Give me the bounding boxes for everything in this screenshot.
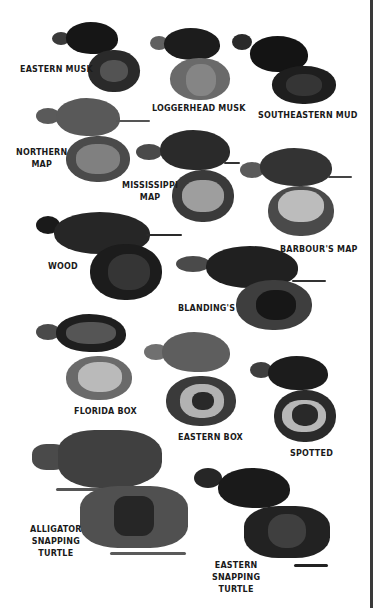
- northern-map-turtle-bottom-image: [66, 136, 132, 184]
- florida-box-turtle-top-image: [36, 314, 132, 358]
- spotted-turtle-top-image: [250, 356, 330, 394]
- loggerhead-musk-turtle-bottom-image: [170, 58, 232, 102]
- alligator-snapping-turtle-bottom-image: [80, 486, 196, 560]
- wood-turtle-bottom-image: [90, 244, 164, 302]
- florida-box-label: FLORIDA BOX: [74, 406, 137, 418]
- alligator-snapping-turtle-top-image: [32, 430, 164, 494]
- eastern-box-turtle-top-image: [144, 332, 238, 376]
- florida-box-turtle-bottom-image: [66, 356, 138, 402]
- loggerhead-musk-label: LOGGERHEAD MUSK: [152, 103, 246, 115]
- mississippi-map-label: MISSISSIPPI MAP: [122, 180, 178, 204]
- eastern-snapping-turtle-label: EASTERN SNAPPING TURTLE: [212, 560, 260, 596]
- alligator-snapping-turtle-label: ALLIGATOR SNAPPING TURTLE: [30, 524, 82, 560]
- eastern-musk-turtle-bottom-image: [88, 50, 144, 94]
- southeastern-mud-label: SOUTHEASTERN MUD: [258, 110, 358, 122]
- eastern-box-label: EASTERN BOX: [178, 432, 243, 444]
- eastern-box-turtle-bottom-image: [166, 376, 254, 428]
- northern-map-turtle-top-image: [36, 98, 150, 140]
- blandings-turtle-bottom-image: [236, 280, 320, 332]
- spotted-turtle-bottom-image: [274, 390, 338, 444]
- southeastern-mud-turtle-bottom-image: [272, 66, 340, 106]
- wood-label: WOOD: [48, 261, 78, 273]
- eastern-musk-label: EASTERN MUSK: [20, 64, 93, 76]
- blandings-label: BLANDING'S: [178, 303, 235, 315]
- spotted-label: SPOTTED: [290, 448, 333, 460]
- mississippi-map-turtle-bottom-image: [172, 170, 236, 224]
- northern-map-label: NORTHERN MAP: [16, 147, 67, 171]
- barbours-map-turtle-bottom-image: [268, 186, 336, 238]
